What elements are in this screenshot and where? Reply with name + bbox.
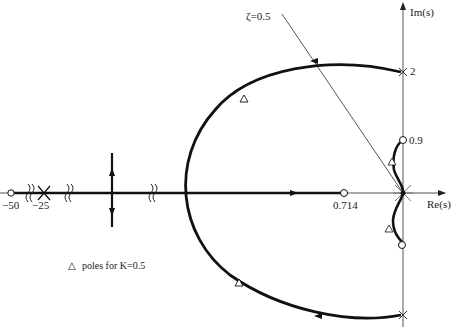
- zero-imag-label: 0.9: [409, 134, 423, 146]
- triangle-pole-marker-icon: [240, 95, 248, 102]
- zero-marker-icon: [341, 190, 348, 197]
- locus-direction-arrow-icon: [310, 58, 318, 64]
- origin-point: [401, 191, 406, 196]
- legend-marker: △: [68, 260, 76, 271]
- imag-axis: [400, 2, 406, 327]
- up-arrow-icon: [109, 168, 115, 176]
- pole-far-label: −25: [32, 199, 50, 211]
- damping-ratio-label: ζ=0.5: [246, 10, 271, 23]
- legend-text: poles for K=0.5: [82, 260, 145, 271]
- zero-marker-icon: [8, 190, 14, 196]
- real-axis-locus: [8, 190, 343, 196]
- zero-marker-icon: [399, 242, 406, 249]
- zero-marker-icon: [400, 137, 407, 144]
- damping-ratio-line: [282, 14, 403, 193]
- triangle-pole-marker-icon: [385, 225, 393, 232]
- zero-real-label: 0.714: [333, 199, 358, 211]
- down-arrow-icon: [109, 208, 115, 216]
- imag-axis-label: Im(s): [410, 6, 434, 19]
- pole-imag-label: 2: [410, 65, 416, 77]
- zero-far-label: −50: [2, 199, 20, 211]
- breakaway-branch: [109, 153, 115, 227]
- root-locus-diagram: Im(s) Re(s) ζ=0.5 −50 −25: [0, 0, 457, 327]
- locus-direction-arrow-icon: [290, 190, 298, 196]
- real-axis-label: Re(s): [427, 198, 451, 211]
- real-axis-arrow-icon: [438, 190, 446, 196]
- imag-axis-arrow-icon: [400, 2, 406, 10]
